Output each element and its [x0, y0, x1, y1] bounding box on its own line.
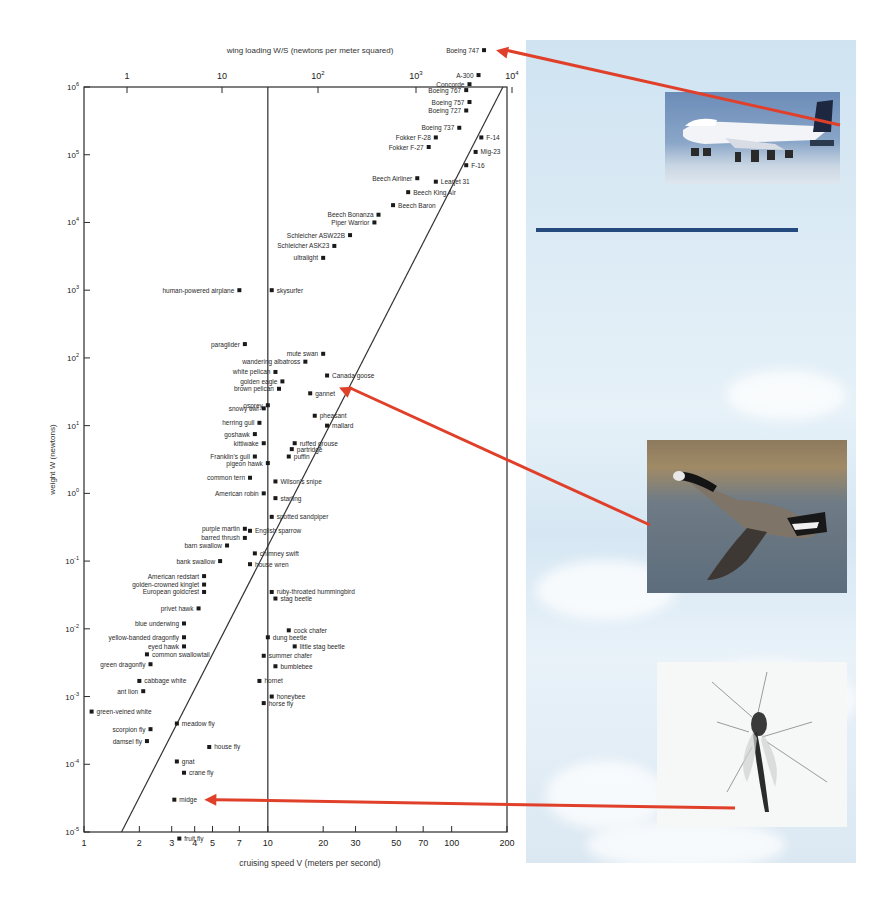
y-tick-label: 101	[67, 420, 79, 431]
y-tick-label: 10-2	[65, 623, 79, 634]
svg-text:green dragonfly: green dragonfly	[100, 661, 146, 669]
data-point: Beech Airliner	[372, 175, 419, 182]
svg-text:Beech Airliner: Beech Airliner	[372, 175, 413, 182]
data-point: English sparrow	[248, 527, 302, 535]
svg-text:common swallowtail: common swallowtail	[152, 651, 210, 658]
midge-arrow	[204, 794, 735, 808]
svg-text:house wren: house wren	[255, 561, 289, 568]
data-point: Beech Baron	[391, 202, 436, 209]
svg-text:goshawk: goshawk	[224, 431, 250, 439]
data-point: herring gull	[222, 419, 261, 427]
svg-text:brown pelican: brown pelican	[234, 385, 274, 393]
svg-text:starling: starling	[280, 495, 301, 503]
data-point: bumblebee	[273, 663, 313, 670]
svg-text:Piper Warrior: Piper Warrior	[331, 219, 370, 227]
x-tick-label: 50	[391, 838, 401, 848]
svg-text:paraglider: paraglider	[211, 341, 241, 349]
x-axis-title: cruising speed V (meters per second)	[150, 858, 470, 868]
svg-text:meadow fly: meadow fly	[182, 720, 216, 728]
data-point: purple martin	[202, 525, 247, 533]
data-point: common tern	[207, 474, 252, 481]
svg-text:little stag beetle: little stag beetle	[300, 643, 346, 651]
data-point: privet hawk	[161, 605, 201, 613]
svg-text:Schleicher ASW22B: Schleicher ASW22B	[287, 232, 345, 239]
y-tick-label: 10-4	[65, 758, 79, 769]
y-axis-title: weight W (newtons)	[48, 380, 57, 540]
x-tick-label: 100	[444, 838, 459, 848]
data-point: house fly	[207, 743, 241, 751]
svg-text:Learjet 31: Learjet 31	[441, 178, 470, 186]
y-tick-label: 10-5	[65, 826, 79, 837]
svg-text:human-powered airplane: human-powered airplane	[162, 287, 234, 295]
svg-text:white pelican: white pelican	[232, 368, 271, 376]
airplane-arrow	[496, 47, 840, 125]
y-tick-label: 105	[67, 149, 79, 160]
svg-text:snowy owl: snowy owl	[229, 405, 260, 413]
svg-text:mute swan: mute swan	[287, 350, 319, 357]
svg-text:European goldcrest: European goldcrest	[143, 588, 200, 596]
data-point: ant lion	[117, 688, 145, 695]
data-point: European goldcrest	[143, 588, 206, 596]
y-tick-label: 103	[67, 284, 79, 295]
data-point: pigeon hawk	[226, 460, 270, 468]
x-tick-label: 7	[237, 838, 242, 848]
great-flight-diagram: 1234571020305070100200106105104103102101…	[0, 0, 896, 915]
svg-text:horse fly: horse fly	[269, 700, 294, 708]
data-point: little stag beetle	[293, 643, 346, 651]
data-point: yellow-banded dragonfly	[109, 634, 186, 642]
data-point: Fokker F-28	[396, 134, 438, 141]
svg-text:fruit fly: fruit fly	[184, 835, 204, 843]
data-point: Boeing 737	[421, 124, 461, 132]
svg-text:cock chafer: cock chafer	[294, 627, 328, 634]
goose-arrow	[339, 387, 650, 525]
data-point: spotted sandpiper	[270, 513, 330, 521]
data-point: stag beetle	[273, 595, 312, 603]
data-point: pheasant	[313, 412, 347, 420]
data-point: hornet	[257, 677, 283, 684]
svg-text:house fly: house fly	[214, 743, 241, 751]
svg-text:blue underwing: blue underwing	[135, 620, 179, 628]
svg-text:American robin: American robin	[215, 490, 259, 497]
x-tick-label: 70	[418, 838, 428, 848]
svg-text:Beech Bonanza: Beech Bonanza	[328, 211, 374, 218]
svg-text:damsel fly: damsel fly	[113, 738, 143, 746]
data-point: brown pelican	[234, 385, 281, 393]
data-point: green dragonfly	[100, 661, 152, 669]
data-point: gnat	[175, 758, 195, 766]
svg-text:F-16: F-16	[471, 162, 485, 169]
svg-text:F-14: F-14	[486, 134, 500, 141]
data-point: A-300	[456, 72, 480, 79]
svg-text:cabbage white: cabbage white	[144, 677, 186, 685]
svg-text:gnat: gnat	[182, 758, 195, 766]
y-tick-label: 10-3	[65, 691, 79, 702]
data-point: gannet	[308, 390, 335, 398]
data-point: mute swan	[287, 350, 325, 357]
svg-text:hornet: hornet	[264, 677, 283, 684]
data-point: green-veined white	[90, 708, 152, 716]
y-tick-label: 106	[67, 81, 79, 92]
data-point: wandering albatross	[241, 358, 307, 366]
data-point: dung beetle	[266, 634, 307, 642]
svg-text:common tern: common tern	[207, 474, 245, 481]
svg-text:ant lion: ant lion	[117, 688, 138, 695]
y-tick-label: 10-1	[65, 555, 79, 566]
svg-text:A-300: A-300	[456, 72, 474, 79]
svg-text:pheasant: pheasant	[320, 412, 347, 420]
data-point: puffin	[287, 453, 310, 461]
data-point: damsel fly	[113, 738, 149, 746]
svg-text:Fokker F-27: Fokker F-27	[389, 144, 424, 151]
top-tick-label: 1	[124, 71, 129, 81]
data-point: barred thrush	[201, 534, 247, 541]
data-point: Piper Warrior	[331, 219, 376, 227]
data-point: Schleicher ASK23	[277, 242, 336, 249]
data-points: Boeing 747A-300ConcordeBoeing 767Boeing …	[90, 47, 501, 843]
svg-text:English sparrow: English sparrow	[255, 527, 302, 535]
svg-text:yellow-banded dragonfly: yellow-banded dragonfly	[109, 634, 180, 642]
data-point: F-14	[479, 134, 500, 141]
top-tick-label: 103	[409, 70, 423, 81]
top-tick-label: 104	[505, 70, 519, 81]
svg-text:chimney swift: chimney swift	[260, 550, 299, 558]
top-tick-label: 10	[217, 71, 227, 81]
data-point: starling	[273, 495, 301, 503]
x-tick-label: 1	[81, 838, 86, 848]
